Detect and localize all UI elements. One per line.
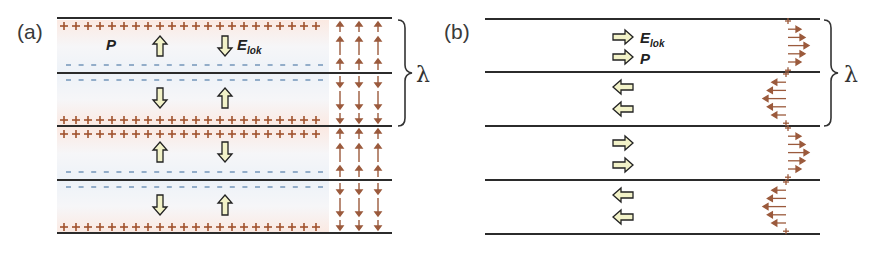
p-symbol: P: [106, 36, 116, 53]
band: [57, 73, 329, 126]
local-field-label: Elok: [237, 36, 261, 56]
panel-a: (a): [0, 0, 440, 253]
wavelength-label: λ: [416, 62, 430, 87]
e-subscript: lok: [247, 45, 261, 56]
e-subscript: lok: [650, 38, 664, 49]
panel-b: (b) Elok P λ: [440, 0, 880, 253]
local-field-label: Elok: [640, 29, 664, 49]
wavelength-brace: [824, 20, 838, 126]
e-symbol: E: [237, 36, 247, 53]
polarization-label: P: [640, 50, 650, 67]
panel-a-label: (a): [17, 20, 43, 44]
panel-a-diagram: [0, 0, 440, 253]
wavelength-brace: [398, 20, 412, 126]
band: [57, 180, 329, 233]
panel-b-label: (b): [444, 20, 470, 44]
wavelength-label: λ: [844, 62, 858, 87]
p-symbol: P: [640, 50, 650, 67]
layer-boundaries: [485, 19, 820, 234]
e-symbol: E: [640, 29, 650, 46]
polarization-label: P: [106, 36, 116, 53]
